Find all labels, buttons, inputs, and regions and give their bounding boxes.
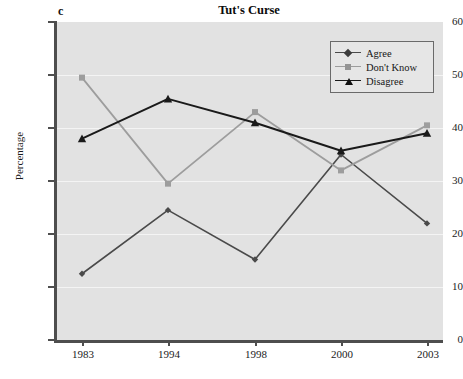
y-tick-mark-40 xyxy=(48,127,54,129)
x-tick-label-2000: 2000 xyxy=(314,348,370,360)
y-tick-label-60: 60 xyxy=(429,15,463,27)
figure: Tut's Curse c Percentage 60 50 40 30 20 … xyxy=(0,0,463,379)
y-tick-mark-10 xyxy=(48,286,54,288)
legend: Agree Don't Know Disagree xyxy=(330,41,434,93)
y-tick-label-0: 0 xyxy=(429,333,463,345)
x-tick-label-1994: 1994 xyxy=(141,348,197,360)
chart-title: Tut's Curse xyxy=(55,3,443,18)
legend-label-dont-know: Don't Know xyxy=(366,62,417,73)
y-axis-title: Percentage xyxy=(13,101,25,211)
y-tick-mark-50 xyxy=(48,74,54,76)
legend-item-dont-know: Don't Know xyxy=(335,60,428,74)
x-tick-mark-1994 xyxy=(168,340,170,346)
y-tick-label-50: 50 xyxy=(429,68,463,80)
gridline-10 xyxy=(57,287,443,288)
x-tick-label-1983: 1983 xyxy=(55,348,111,360)
y-tick-mark-20 xyxy=(48,233,54,235)
y-tick-label-10: 10 xyxy=(429,280,463,292)
y-tick-mark-30 xyxy=(48,180,54,182)
y-tick-label-40: 40 xyxy=(429,121,463,133)
legend-item-agree: Agree xyxy=(335,46,428,60)
gridline-40 xyxy=(57,128,443,129)
gridline-30 xyxy=(57,181,443,182)
panel-label: c xyxy=(58,4,63,19)
x-tick-mark-2000 xyxy=(341,340,343,346)
legend-swatch-dont-know xyxy=(335,61,361,73)
legend-item-disagree: Disagree xyxy=(335,74,428,88)
x-tick-mark-1998 xyxy=(255,340,257,346)
x-tick-mark-1983 xyxy=(82,340,84,346)
y-tick-mark-0 xyxy=(48,339,54,341)
legend-label-agree: Agree xyxy=(366,48,392,59)
y-tick-label-30: 30 xyxy=(429,174,463,186)
x-tick-label-2003: 2003 xyxy=(400,348,456,360)
legend-swatch-disagree xyxy=(335,75,361,87)
legend-swatch-agree xyxy=(335,47,361,59)
x-axis-line xyxy=(54,340,443,343)
x-tick-mark-2003 xyxy=(427,340,429,346)
y-tick-mark-60 xyxy=(48,21,54,23)
x-tick-label-1998: 1998 xyxy=(228,348,284,360)
y-tick-label-20: 20 xyxy=(429,227,463,239)
y-axis-line xyxy=(54,21,57,341)
legend-label-disagree: Disagree xyxy=(366,76,403,87)
gridline-20 xyxy=(57,234,443,235)
